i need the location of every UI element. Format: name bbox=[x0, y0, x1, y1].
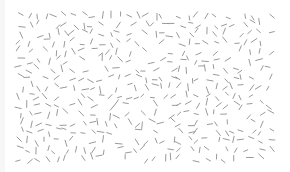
line-segment bbox=[60, 23, 66, 27]
line-segment bbox=[54, 105, 58, 107]
line-segment bbox=[61, 65, 63, 72]
line-segment bbox=[257, 29, 261, 32]
line-segment bbox=[91, 153, 93, 159]
line-segment bbox=[84, 23, 85, 29]
line-segment bbox=[251, 16, 254, 20]
line-segment bbox=[159, 14, 161, 18]
line-segment bbox=[130, 52, 132, 57]
line-segment bbox=[46, 124, 51, 125]
line-segment bbox=[105, 66, 108, 71]
line-segment bbox=[27, 131, 32, 133]
line-segment bbox=[99, 22, 103, 25]
line-segment bbox=[234, 68, 239, 69]
line-segment bbox=[249, 95, 253, 97]
line-segment bbox=[134, 97, 138, 99]
line-segment bbox=[26, 150, 30, 152]
line-segment bbox=[230, 131, 234, 133]
line-segment bbox=[70, 78, 76, 80]
line-segment bbox=[260, 41, 261, 45]
line-segment bbox=[82, 156, 85, 161]
line-segment bbox=[215, 42, 219, 44]
line-segment bbox=[224, 69, 228, 74]
line-segment bbox=[37, 14, 38, 19]
line-segment bbox=[125, 152, 131, 153]
line-segment bbox=[35, 113, 41, 114]
line-segment bbox=[82, 89, 89, 90]
line-segment bbox=[212, 14, 216, 17]
line-segment bbox=[18, 13, 23, 16]
line-segment bbox=[46, 104, 51, 107]
line-segment bbox=[226, 17, 230, 19]
line-segment bbox=[19, 27, 25, 28]
line-segment bbox=[141, 94, 144, 97]
line-segment bbox=[215, 122, 218, 126]
line-segment bbox=[195, 61, 197, 65]
line-segment bbox=[33, 97, 39, 100]
line-segment bbox=[131, 22, 136, 25]
line-segment bbox=[119, 75, 120, 79]
line-segment bbox=[74, 86, 75, 91]
line-segment bbox=[38, 129, 43, 131]
line-segment bbox=[74, 25, 78, 29]
line-segment bbox=[247, 115, 250, 119]
line-segment bbox=[146, 21, 149, 26]
line-segment bbox=[178, 112, 181, 115]
line-segment bbox=[164, 95, 168, 98]
line-segment bbox=[239, 95, 241, 99]
line-segment bbox=[34, 104, 39, 105]
line-segment bbox=[178, 66, 179, 71]
line-segment bbox=[151, 97, 155, 98]
line-segment bbox=[233, 94, 235, 99]
line-segment bbox=[135, 129, 141, 130]
line-segment bbox=[260, 112, 265, 115]
line-segment bbox=[140, 145, 144, 149]
line-segment bbox=[137, 12, 140, 18]
line-segment bbox=[92, 147, 95, 153]
line-segment bbox=[146, 78, 147, 83]
line-segment bbox=[145, 85, 148, 90]
line-segment bbox=[78, 48, 84, 50]
line-segment bbox=[107, 133, 112, 135]
line-segment bbox=[97, 118, 98, 124]
line-segment bbox=[185, 101, 191, 104]
line-segment bbox=[58, 157, 60, 162]
line-segment bbox=[128, 83, 132, 84]
line-segment bbox=[123, 103, 128, 104]
line-segment bbox=[181, 26, 186, 28]
line-segment bbox=[142, 30, 147, 34]
line-segment bbox=[186, 91, 187, 97]
line-segment bbox=[48, 112, 50, 118]
line-segment bbox=[16, 160, 20, 161]
line-segment bbox=[72, 48, 75, 54]
line-segment bbox=[216, 83, 217, 88]
line-segment bbox=[194, 114, 198, 115]
line-segment bbox=[55, 83, 59, 86]
line-segment bbox=[30, 94, 34, 95]
line-segment bbox=[240, 33, 243, 36]
line-segment bbox=[61, 12, 65, 16]
line-segment bbox=[233, 136, 234, 142]
line-segment bbox=[176, 16, 180, 18]
line-segment bbox=[116, 88, 117, 92]
line-segment bbox=[16, 41, 20, 44]
line-segment bbox=[189, 16, 190, 20]
line-segment bbox=[190, 33, 194, 37]
line-segment bbox=[238, 130, 243, 132]
line-segment bbox=[53, 42, 55, 47]
line-segment bbox=[65, 31, 69, 36]
line-segment bbox=[49, 33, 50, 37]
line-segment bbox=[52, 151, 55, 154]
line-segment bbox=[244, 40, 247, 45]
line-segment bbox=[37, 20, 39, 24]
line-segment bbox=[46, 14, 47, 19]
line-segment bbox=[89, 142, 95, 144]
line-segment bbox=[88, 97, 93, 101]
line-segment bbox=[26, 70, 32, 73]
line-segment bbox=[226, 131, 229, 136]
line-segment bbox=[168, 149, 174, 150]
line-segment bbox=[149, 119, 155, 122]
line-segment bbox=[177, 83, 181, 88]
line-segment bbox=[159, 40, 164, 44]
line-segment bbox=[43, 77, 48, 79]
line-segment bbox=[114, 31, 119, 32]
